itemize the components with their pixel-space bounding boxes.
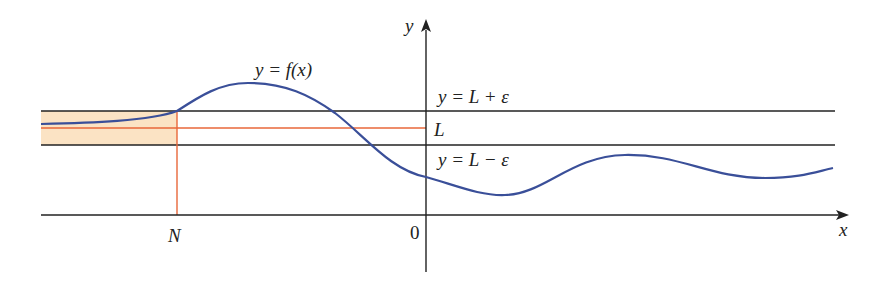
limit-label: L	[434, 120, 445, 139]
origin-label: 0	[410, 223, 420, 242]
n-marker-label: N	[168, 226, 181, 245]
y-axis-label: y	[405, 16, 413, 35]
x-axis-label: x	[839, 220, 847, 239]
curve-label: y = f(x)	[255, 60, 312, 79]
lower-band-label: y = L − ε	[438, 150, 509, 169]
upper-band-label: y = L + ε	[438, 87, 509, 106]
diagram-canvas	[0, 0, 886, 290]
